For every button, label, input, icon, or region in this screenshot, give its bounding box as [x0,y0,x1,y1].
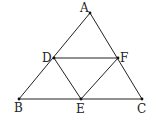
triangle-diagram: A B C D E F [0,0,156,119]
segment-ac [90,13,142,99]
label-b: B [14,101,23,115]
label-e: E [76,102,85,116]
point-d-dot [53,57,56,60]
label-d: D [42,51,52,65]
label-a: A [79,1,89,15]
point-b-dot [18,98,21,101]
segment-ab [19,13,90,99]
segment-de [54,58,81,99]
point-e-dot [80,98,83,101]
point-c-dot [141,98,144,101]
point-a-dot [89,12,92,15]
point-f-dot [117,57,120,60]
label-f: F [120,51,128,65]
segment-ef [81,58,118,99]
label-c: C [137,102,146,116]
